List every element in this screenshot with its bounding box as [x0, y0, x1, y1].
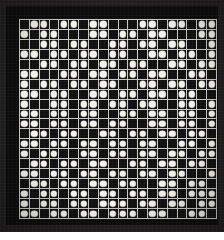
matrix-cell-filled[interactable]: [59, 129, 68, 138]
matrix-cell-filled[interactable]: [50, 80, 59, 89]
matrix-cell-filled[interactable]: [50, 60, 59, 69]
matrix-cell-empty[interactable]: [148, 159, 157, 168]
matrix-cell-filled[interactable]: [148, 40, 157, 49]
matrix-cell-filled[interactable]: [79, 80, 88, 89]
matrix-cell-filled[interactable]: [119, 70, 128, 79]
matrix-cell-filled[interactable]: [148, 199, 157, 208]
matrix-cell-empty[interactable]: [119, 20, 128, 29]
matrix-cell-empty[interactable]: [20, 179, 29, 188]
matrix-cell-filled[interactable]: [119, 90, 128, 99]
matrix-cell-empty[interactable]: [109, 110, 118, 119]
matrix-cell-empty[interactable]: [99, 169, 108, 178]
matrix-cell-filled[interactable]: [89, 30, 98, 39]
matrix-cell-filled[interactable]: [59, 20, 68, 29]
matrix-cell-filled[interactable]: [89, 20, 98, 29]
matrix-cell-filled[interactable]: [59, 100, 68, 109]
matrix-cell-filled[interactable]: [207, 100, 216, 109]
matrix-cell-filled[interactable]: [207, 60, 216, 69]
matrix-cell-empty[interactable]: [99, 209, 108, 218]
matrix-cell-filled[interactable]: [20, 189, 29, 198]
matrix-cell-filled[interactable]: [197, 30, 206, 39]
matrix-cell-empty[interactable]: [168, 70, 177, 79]
matrix-cell-empty[interactable]: [158, 80, 167, 89]
matrix-cell-empty[interactable]: [178, 209, 187, 218]
matrix-cell-empty[interactable]: [30, 189, 39, 198]
matrix-cell-empty[interactable]: [89, 199, 98, 208]
matrix-cell-empty[interactable]: [148, 189, 157, 198]
matrix-cell-filled[interactable]: [178, 110, 187, 119]
matrix-cell-filled[interactable]: [128, 159, 137, 168]
matrix-cell-filled[interactable]: [40, 159, 49, 168]
matrix-cell-empty[interactable]: [59, 80, 68, 89]
matrix-cell-filled[interactable]: [79, 209, 88, 218]
matrix-cell-empty[interactable]: [109, 159, 118, 168]
matrix-cell-filled[interactable]: [20, 149, 29, 158]
matrix-cell-filled[interactable]: [128, 209, 137, 218]
matrix-cell-filled[interactable]: [187, 119, 196, 128]
matrix-cell-filled[interactable]: [69, 60, 78, 69]
matrix-cell-filled[interactable]: [138, 129, 147, 138]
matrix-cell-empty[interactable]: [20, 60, 29, 69]
matrix-cell-filled[interactable]: [99, 179, 108, 188]
matrix-cell-filled[interactable]: [50, 199, 59, 208]
matrix-cell-filled[interactable]: [99, 189, 108, 198]
matrix-cell-empty[interactable]: [59, 189, 68, 198]
matrix-cell-empty[interactable]: [69, 90, 78, 99]
matrix-cell-filled[interactable]: [99, 129, 108, 138]
matrix-cell-empty[interactable]: [158, 199, 167, 208]
matrix-cell-empty[interactable]: [69, 149, 78, 158]
matrix-cell-empty[interactable]: [109, 179, 118, 188]
matrix-cell-filled[interactable]: [30, 209, 39, 218]
matrix-cell-empty[interactable]: [178, 30, 187, 39]
matrix-cell-empty[interactable]: [197, 169, 206, 178]
matrix-cell-empty[interactable]: [138, 30, 147, 39]
matrix-cell-empty[interactable]: [187, 30, 196, 39]
matrix-cell-filled[interactable]: [89, 119, 98, 128]
matrix-cell-filled[interactable]: [20, 70, 29, 79]
matrix-cell-filled[interactable]: [79, 110, 88, 119]
matrix-cell-empty[interactable]: [138, 209, 147, 218]
matrix-cell-filled[interactable]: [30, 159, 39, 168]
matrix-cell-empty[interactable]: [138, 119, 147, 128]
matrix-cell-empty[interactable]: [148, 179, 157, 188]
matrix-cell-empty[interactable]: [109, 70, 118, 79]
matrix-cell-filled[interactable]: [20, 169, 29, 178]
matrix-cell-empty[interactable]: [197, 90, 206, 99]
matrix-cell-empty[interactable]: [168, 209, 177, 218]
matrix-cell-filled[interactable]: [168, 129, 177, 138]
matrix-cell-empty[interactable]: [69, 119, 78, 128]
matrix-cell-filled[interactable]: [148, 90, 157, 99]
matrix-cell-empty[interactable]: [69, 209, 78, 218]
matrix-cell-empty[interactable]: [109, 20, 118, 29]
matrix-cell-filled[interactable]: [69, 20, 78, 29]
matrix-cell-empty[interactable]: [69, 30, 78, 39]
matrix-cell-empty[interactable]: [99, 139, 108, 148]
matrix-cell-empty[interactable]: [40, 70, 49, 79]
matrix-cell-filled[interactable]: [128, 90, 137, 99]
matrix-cell-empty[interactable]: [158, 169, 167, 178]
matrix-cell-filled[interactable]: [89, 159, 98, 168]
matrix-cell-empty[interactable]: [119, 189, 128, 198]
matrix-cell-filled[interactable]: [178, 169, 187, 178]
matrix-cell-empty[interactable]: [128, 40, 137, 49]
matrix-cell-empty[interactable]: [138, 50, 147, 59]
matrix-cell-empty[interactable]: [59, 60, 68, 69]
matrix-cell-filled[interactable]: [158, 30, 167, 39]
matrix-cell-filled[interactable]: [197, 129, 206, 138]
matrix-cell-filled[interactable]: [148, 209, 157, 218]
matrix-cell-empty[interactable]: [69, 50, 78, 59]
matrix-cell-filled[interactable]: [69, 159, 78, 168]
matrix-cell-filled[interactable]: [40, 20, 49, 29]
matrix-cell-empty[interactable]: [20, 129, 29, 138]
matrix-cell-filled[interactable]: [69, 199, 78, 208]
matrix-cell-empty[interactable]: [128, 119, 137, 128]
matrix-cell-empty[interactable]: [207, 90, 216, 99]
matrix-cell-filled[interactable]: [178, 139, 187, 148]
matrix-cell-filled[interactable]: [207, 40, 216, 49]
matrix-cell-filled[interactable]: [148, 119, 157, 128]
matrix-cell-filled[interactable]: [197, 159, 206, 168]
matrix-cell-filled[interactable]: [89, 149, 98, 158]
matrix-cell-empty[interactable]: [69, 110, 78, 119]
matrix-cell-filled[interactable]: [128, 179, 137, 188]
matrix-cell-filled[interactable]: [187, 209, 196, 218]
